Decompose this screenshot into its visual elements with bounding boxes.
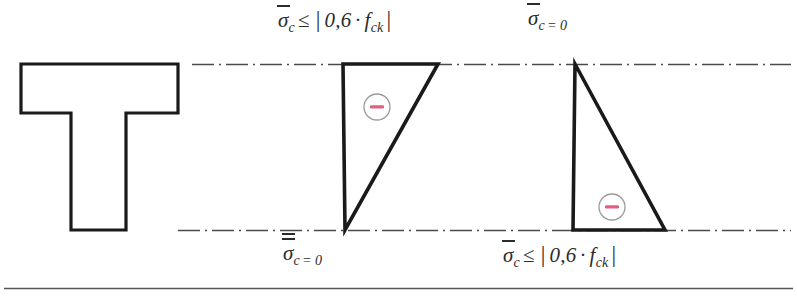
stress-distribution-figure: σc≤|0,6·fck| σc=0 σc=0 σc≤|0,6·fck| bbox=[0, 0, 797, 300]
sigma-symbol: σ bbox=[283, 243, 294, 264]
stress-zero-top-right: σc=0 bbox=[528, 8, 568, 29]
t-beam-cross-section bbox=[21, 64, 178, 230]
sigma-symbol: σ bbox=[503, 245, 514, 266]
multiplication-dot: · bbox=[577, 243, 588, 267]
coefficient-value: 0,6 bbox=[549, 243, 578, 267]
abs-open-bar: | bbox=[538, 242, 549, 267]
coefficient-value: 0,6 bbox=[324, 8, 353, 32]
multiplication-dot: · bbox=[352, 8, 363, 32]
relation-symbol: = bbox=[545, 18, 559, 33]
stress-limit-top-left: σc≤|0,6·fck| bbox=[278, 8, 394, 31]
relation-symbol: ≤ bbox=[520, 243, 538, 267]
compression-sign-diagram-2 bbox=[599, 194, 625, 220]
sigma-subscript: c bbox=[289, 20, 295, 35]
sigma-symbol: σ bbox=[278, 10, 289, 31]
stress-limit-bottom-right: σc≤|0,6·fck| bbox=[503, 243, 619, 266]
f-symbol: f bbox=[589, 243, 596, 267]
sigma-subscript: c bbox=[514, 255, 520, 270]
abs-open-bar: | bbox=[313, 7, 324, 32]
f-symbol: f bbox=[364, 8, 371, 32]
stress-value: 0 bbox=[559, 18, 568, 33]
relation-symbol: = bbox=[300, 253, 314, 268]
compression-sign-diagram-1 bbox=[364, 94, 390, 120]
stress-zero-bottom-left: σc=0 bbox=[283, 243, 323, 264]
relation-symbol: ≤ bbox=[295, 8, 313, 32]
figure-canvas bbox=[0, 0, 797, 300]
stress-value: 0 bbox=[314, 253, 323, 268]
sigma-symbol: σ bbox=[528, 8, 539, 29]
stress-triangle-top-compression bbox=[343, 64, 438, 230]
abs-close-bar: | bbox=[383, 7, 394, 32]
abs-close-bar: | bbox=[608, 242, 619, 267]
f-subscript: ck bbox=[371, 20, 384, 35]
f-subscript: ck bbox=[596, 255, 609, 270]
